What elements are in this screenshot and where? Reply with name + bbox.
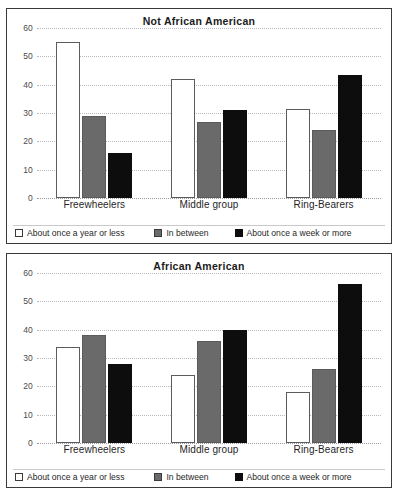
x-axis-label: Ring-Bearers [266,199,381,210]
y-axis-tick: 60 [23,268,33,278]
x-axis-label: Middle group [152,199,267,210]
bar-group [266,28,381,198]
panel-title: Not African American [7,9,391,28]
legend-label: About once a year or less [27,228,124,238]
bar[interactable] [286,392,310,443]
legend-label: In between [166,472,208,482]
bar[interactable] [312,130,336,198]
plot-area: 0102030405060 FreewheelersMiddle groupRi… [7,273,385,455]
x-axis-labels: FreewheelersMiddle groupRing-Bearers [37,444,381,455]
x-axis-label: Freewheelers [37,199,152,210]
bar[interactable] [223,110,247,198]
bar[interactable] [312,369,336,443]
chart-figure: Not African American 0102030405060 Freew… [0,0,398,493]
legend-label: In between [166,228,208,238]
y-axis-tick: 10 [23,410,33,420]
x-axis-label: Middle group [152,444,267,455]
chart-legend: About once a year or lessIn betweenAbout… [15,469,385,484]
plot-area: 0102030405060 FreewheelersMiddle groupRi… [7,28,385,210]
bar[interactable] [82,335,106,443]
legend-swatch-icon [235,229,243,237]
bar-group [266,273,381,443]
bar-group [152,273,267,443]
y-axis-tick: 0 [28,438,33,448]
x-axis-labels: FreewheelersMiddle groupRing-Bearers [37,199,381,210]
bar[interactable] [171,79,195,198]
legend-item[interactable]: In between [154,472,208,482]
y-axis-tick: 30 [23,353,33,363]
bar[interactable] [286,109,310,198]
legend-item[interactable]: In between [154,228,208,238]
bar[interactable] [338,75,362,198]
chart-legend: About once a year or lessIn betweenAbout… [15,225,385,240]
legend-label: About once a year or less [27,472,124,482]
y-axis-tick: 20 [23,136,33,146]
bar[interactable] [82,116,106,198]
y-axis-tick: 50 [23,51,33,61]
y-axis-tick: 0 [28,193,33,203]
legend-swatch-icon [235,473,243,481]
legend-label: About once a week or more [247,228,352,238]
legend-item[interactable]: About once a year or less [15,472,124,482]
legend-swatch-icon [154,473,162,481]
bar[interactable] [108,153,132,198]
bar[interactable] [223,330,247,443]
x-axis-label: Ring-Bearers [266,444,381,455]
legend-item[interactable]: About once a week or more [235,472,352,482]
x-axis-label: Freewheelers [37,444,152,455]
chart-panel-not-african-american: Not African American 0102030405060 Freew… [6,8,392,244]
panel-title: African American [7,254,391,273]
bar[interactable] [56,347,80,443]
legend-swatch-icon [15,229,23,237]
bar-groups [37,28,381,198]
chart-panel-african-american: African American 0102030405060 Freewheel… [6,253,392,488]
bar-group [37,28,152,198]
y-axis-tick: 20 [23,381,33,391]
legend-item[interactable]: About once a week or more [235,228,352,238]
legend-swatch-icon [15,473,23,481]
bar-group [152,28,267,198]
y-axis-tick: 10 [23,165,33,175]
legend-item[interactable]: About once a year or less [15,228,124,238]
y-axis-tick: 30 [23,108,33,118]
y-axis-tick: 40 [23,80,33,90]
bar[interactable] [108,364,132,443]
bar[interactable] [197,122,221,199]
legend-label: About once a week or more [247,472,352,482]
bar-groups [37,273,381,443]
bar[interactable] [171,375,195,443]
legend-swatch-icon [154,229,162,237]
bar-group [37,273,152,443]
y-axis-tick: 50 [23,296,33,306]
bar[interactable] [338,284,362,443]
bar[interactable] [56,42,80,198]
y-axis-tick: 60 [23,23,33,33]
y-axis-tick: 40 [23,325,33,335]
y-axis: 0102030405060 [7,273,37,443]
y-axis: 0102030405060 [7,28,37,198]
bar[interactable] [197,341,221,443]
